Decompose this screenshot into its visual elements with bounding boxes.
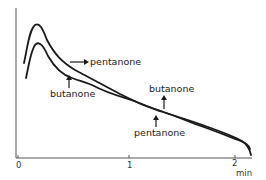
label-pentanone-bottom: pentanone	[134, 127, 185, 138]
arrowhead-up-icon	[153, 115, 159, 120]
x-axis-unit-label: min	[236, 168, 252, 178]
arrowhead-right-icon	[84, 59, 89, 65]
x-tick-label-2: 2	[232, 158, 237, 168]
label-pentanone-top: pentanone	[90, 56, 141, 67]
x-tick-label-0: 0	[16, 160, 21, 170]
arrowhead-up-icon	[161, 95, 167, 100]
x-tick-label-1: 1	[127, 160, 132, 170]
label-butanone-left: butanone	[50, 88, 95, 99]
label-butanone-right: butanone	[149, 83, 194, 94]
chromatogram-chart: 0 1 2 min pentanone butanone butanone pe…	[0, 0, 266, 180]
